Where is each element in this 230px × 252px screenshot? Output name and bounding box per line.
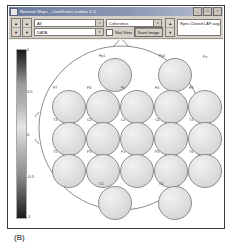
- band-spinner-down[interactable]: ▼: [12, 28, 20, 36]
- stat-view-label: Stat View: [115, 30, 132, 35]
- colorbar-tick-1: 1: [27, 47, 29, 52]
- network-maps-window: Network Maps - Coefficient studies 1-3 _…: [7, 5, 225, 229]
- electrode-pz[interactable]: [120, 154, 154, 188]
- subject-spinner-down[interactable]: ▼: [23, 28, 31, 36]
- electrode-label-o1: O1: [99, 182, 104, 186]
- left-ear-marker: [35, 112, 39, 144]
- threshold-spinner-down[interactable]: ▼: [166, 28, 174, 36]
- band-spinner[interactable]: ▲ ▼: [11, 18, 21, 37]
- head-topomap: Fp1Fp2F7F3FzF4F8T3C3CzC4T4T5P3PzP4T6O1O2…: [35, 40, 223, 227]
- colorbar-tick-0: 0: [27, 132, 29, 137]
- window-controls: _ □ ×: [193, 7, 222, 16]
- app-window-icon: [10, 8, 18, 16]
- electrode-label-t6: T6: [189, 150, 193, 154]
- electrode-fp1[interactable]: [98, 58, 132, 92]
- threshold-spinner-up[interactable]: ▲: [166, 19, 174, 28]
- datatype-select-value: DATA: [35, 30, 95, 35]
- maximize-button[interactable]: □: [203, 7, 212, 16]
- stat-view-checkbox[interactable]: [106, 29, 113, 36]
- colorbar: [16, 49, 27, 219]
- colorbar-tick-neg1: -1: [27, 214, 31, 219]
- threshold-spinner[interactable]: ▲ ▼: [165, 18, 175, 37]
- chevron-down-icon[interactable]: ▾: [153, 20, 161, 26]
- electrode-o1[interactable]: [98, 186, 132, 220]
- electrode-label-f4: F4: [155, 86, 159, 90]
- band-select[interactable]: All ▾: [34, 19, 104, 27]
- map-annotation: Fz: [203, 54, 207, 59]
- electrode-label-fp2: Fp2: [159, 54, 165, 58]
- electrode-label-fp1: Fp1: [99, 54, 105, 58]
- electrode-fp2[interactable]: [158, 58, 192, 92]
- electrode-label-f3: F3: [87, 86, 91, 90]
- electrode-label-pz: Pz: [121, 150, 125, 154]
- electrode-label-p4: P4: [155, 150, 159, 154]
- info-field[interactable]: Eyes Closed LAP avg/pz 1.0: [177, 19, 221, 36]
- window-title: Network Maps - Coefficient studies 1-3: [20, 9, 193, 14]
- electrode-label-c3: C3: [87, 118, 92, 122]
- electrode-o2[interactable]: [158, 186, 192, 220]
- condition-column: Coherence ▾ Stat View Save Image: [106, 19, 163, 36]
- condition-select[interactable]: Coherence ▾: [106, 19, 162, 27]
- subject-spinner[interactable]: ▲ ▼: [22, 18, 32, 37]
- select-column: All ▾ DATA ▾: [34, 19, 104, 36]
- condition-select-value: Coherence: [107, 21, 153, 26]
- electrode-label-f7: F7: [53, 86, 57, 90]
- figure-caption: (B): [14, 233, 25, 242]
- colorbar-tick-05: 0.5: [27, 89, 33, 94]
- close-button[interactable]: ×: [213, 7, 222, 16]
- datatype-select[interactable]: DATA ▾: [34, 28, 104, 36]
- electrode-label-t4: T4: [189, 118, 193, 122]
- electrode-label-p3: P3: [87, 150, 91, 154]
- plot-canvas: 1 0.5 0 -0.5 -1 Fp1Fp2F7F3FzF4F8T3C3CzC4…: [9, 39, 223, 227]
- colorbar-tick-neg05: -0.5: [27, 174, 34, 179]
- electrode-label-fz: Fz: [121, 86, 125, 90]
- electrode-label-t5: T5: [53, 150, 57, 154]
- band-spinner-up[interactable]: ▲: [12, 19, 20, 28]
- threshold-spinner-group: ▲ ▼: [165, 18, 175, 37]
- chevron-down-icon[interactable]: ▾: [95, 29, 103, 35]
- minimize-button[interactable]: _: [193, 7, 202, 16]
- electrode-t6[interactable]: [188, 154, 222, 188]
- figure-panel: Network Maps - Coefficient studies 1-3 _…: [0, 0, 230, 252]
- statview-row: Stat View Save Image: [106, 28, 163, 36]
- save-image-button[interactable]: Save Image: [134, 27, 163, 37]
- spinner-group: ▲ ▼ ▲ ▼: [11, 18, 32, 37]
- subject-spinner-up[interactable]: ▲: [23, 19, 31, 28]
- electrode-label-o2: O2: [159, 182, 164, 186]
- chevron-down-icon[interactable]: ▾: [95, 20, 103, 26]
- electrode-label-t3: T3: [53, 118, 57, 122]
- electrode-label-f8: F8: [189, 86, 193, 90]
- toolbar: ▲ ▼ ▲ ▼ All ▾ DATA ▾: [9, 17, 223, 39]
- electrode-label-c4: C4: [155, 118, 160, 122]
- electrode-label-cz: Cz: [121, 118, 125, 122]
- electrode-t5[interactable]: [52, 154, 86, 188]
- title-bar[interactable]: Network Maps - Coefficient studies 1-3 _…: [9, 7, 223, 16]
- band-select-value: All: [35, 21, 95, 26]
